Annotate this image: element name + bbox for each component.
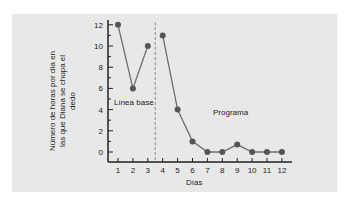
x-axis-label: Días [186, 178, 202, 187]
y-tick-label: 0 [99, 148, 104, 157]
data-point [130, 85, 136, 91]
data-point [264, 149, 270, 155]
x-tick-label: 2 [131, 166, 136, 175]
data-point [234, 142, 240, 148]
data-point [175, 107, 181, 113]
x-tick-label: 7 [205, 166, 210, 175]
x-tick-label: 12 [277, 166, 286, 175]
program-series-line [163, 35, 282, 152]
x-tick-label: 11 [263, 166, 272, 175]
y-tick-label: 4 [99, 106, 104, 115]
data-point [219, 149, 225, 155]
program-phase-label: Programa [213, 108, 248, 117]
x-tick-label: 5 [175, 166, 180, 175]
baseline-series-line [118, 25, 148, 89]
y-tick-label: 8 [99, 63, 104, 72]
data-point [145, 43, 151, 49]
data-point [190, 138, 196, 144]
data-point [204, 149, 210, 155]
x-tick-label: 3 [146, 166, 151, 175]
data-point [279, 149, 285, 155]
baseline-phase-label: Línea base [114, 98, 154, 107]
y-tick-label: 2 [99, 127, 104, 136]
data-point [115, 22, 121, 28]
y-axis-label: Número de horas por día en las que Diana… [38, 46, 88, 156]
y-tick-label: 6 [99, 84, 104, 93]
x-tick-label: 10 [248, 166, 257, 175]
x-tick-label: 6 [190, 166, 195, 175]
x-tick-label: 8 [220, 166, 225, 175]
data-point [249, 149, 255, 155]
data-point [160, 32, 166, 38]
y-tick-label: 12 [94, 21, 103, 30]
x-tick-label: 4 [160, 166, 165, 175]
x-tick-label: 1 [116, 166, 121, 175]
x-tick-label: 9 [235, 166, 240, 175]
y-tick-label: 10 [94, 42, 103, 51]
